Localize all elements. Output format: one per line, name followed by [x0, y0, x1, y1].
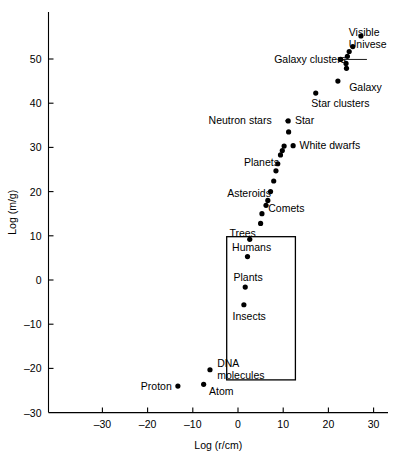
x-axis-tick-label: 30: [368, 418, 380, 430]
data-point-star: [286, 118, 291, 123]
y-axis-tick-label: –30: [24, 407, 42, 419]
visible-universe-label-line2: Univese: [349, 38, 387, 50]
data-point-dna-molecules: [207, 367, 212, 372]
mass-radius-scatter-chart: –30–20–1001020304050–30–20–100102030 Vis…: [0, 0, 396, 458]
star-clusters-label: Star clusters: [311, 97, 369, 109]
data-point-insects: [241, 302, 246, 307]
chart-background: [0, 0, 396, 458]
y-axis-tick-label: –20: [24, 362, 42, 374]
proton-label: Proton: [141, 380, 172, 392]
comets-label: Comets: [268, 202, 304, 214]
humans-label: Humans: [232, 241, 271, 253]
visible-universe-label-line1: Visible: [349, 26, 380, 38]
galaxy-clusters-label: Galaxy clusters: [274, 53, 346, 65]
data-point-star-clusters: [313, 90, 318, 95]
y-axis-tick-label: 50: [30, 53, 42, 65]
asteroids-label: Asteroids: [227, 187, 271, 199]
x-axis-tick-label: 0: [235, 418, 241, 430]
data-point-white-dwarf-2: [291, 143, 296, 148]
y-axis-tick-label: –10: [24, 318, 42, 330]
data-point-asteroids-3: [271, 178, 276, 183]
y-axis-tick-label: 20: [30, 186, 42, 198]
x-axis-title: Log (r/cm): [194, 439, 242, 451]
white-dwarfs-label: White dwarfs: [299, 139, 360, 151]
star-label: Star: [295, 114, 315, 126]
dna-label-line2: molecules: [217, 369, 264, 381]
data-point-comets-1: [258, 221, 263, 226]
atom-label: Atom: [209, 385, 234, 397]
insects-label: Insects: [233, 310, 266, 322]
neutron-stars-label: Neutron stars: [209, 114, 272, 126]
trees-label: Trees: [229, 227, 255, 239]
y-axis-tick-label: 10: [30, 230, 42, 242]
y-axis-tick-label: 30: [30, 141, 42, 153]
data-point-planets-1: [273, 168, 278, 173]
data-point-planets-4: [280, 148, 285, 153]
data-point-gc-2: [344, 66, 349, 71]
data-point-star-lower: [286, 129, 291, 134]
x-axis-tick-label: –10: [184, 418, 202, 430]
y-axis-tick-label: 0: [36, 274, 42, 286]
y-axis-tick-label: 40: [30, 97, 42, 109]
galaxy-label: Galaxy: [349, 81, 382, 93]
data-point-white-dwarf-1: [282, 143, 287, 148]
planets-label: Planets: [244, 156, 279, 168]
data-point-comets-2: [259, 211, 264, 216]
dna-label-line1: DNA: [217, 357, 239, 369]
x-axis-tick-label: 20: [323, 418, 335, 430]
y-axis-title: Log (m/g): [6, 190, 18, 235]
x-axis-tick-label: 10: [277, 418, 289, 430]
data-point-galaxy: [335, 79, 340, 84]
plants-label: Plants: [233, 271, 262, 283]
data-point-humans: [245, 254, 250, 259]
data-point-proton: [175, 383, 180, 388]
data-point-atom: [201, 382, 206, 387]
data-point-plants: [243, 284, 248, 289]
x-axis-tick-label: –30: [94, 418, 112, 430]
x-axis-tick-label: –20: [139, 418, 157, 430]
